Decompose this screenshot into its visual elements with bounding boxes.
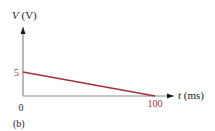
tick-labels: 1005 bbox=[14, 67, 163, 109]
y-axis-unit: (V) bbox=[19, 9, 37, 22]
x-tick-label: 100 bbox=[148, 98, 163, 109]
origin-label: 0 bbox=[19, 102, 24, 113]
y-tick-label: 5 bbox=[14, 67, 19, 78]
series-line bbox=[23, 72, 155, 96]
series-group bbox=[23, 72, 155, 96]
x-axis-unit: (ms) bbox=[181, 89, 204, 102]
y-axis-label: V (V) bbox=[12, 9, 37, 22]
x-axis-label: t (ms) bbox=[178, 89, 204, 102]
panel-label: (b) bbox=[13, 118, 25, 130]
chart: V (V) t (ms) 0 1005 (b) bbox=[0, 0, 215, 131]
